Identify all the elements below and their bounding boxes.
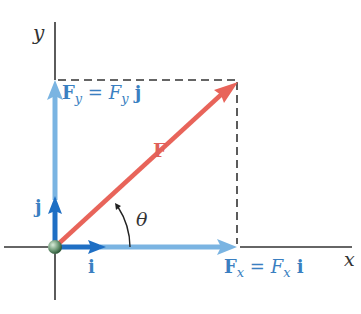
theta-arc [115, 203, 130, 247]
j-unit-vector [48, 196, 62, 247]
i-label: i [88, 256, 95, 277]
fy-label: Fy = Fy j [62, 82, 141, 106]
j-label: j [33, 196, 42, 217]
fy-vector [47, 80, 63, 200]
f-label: F [153, 139, 167, 161]
theta-label: θ [136, 208, 148, 230]
force-components-diagram: y x Fy = Fy j Fx = Fx i F θ i j [0, 0, 361, 314]
fx-label: Fx = Fx i [224, 256, 304, 280]
particle [48, 240, 62, 254]
fx-vector [100, 239, 237, 255]
y-axis-label: y [32, 21, 45, 45]
x-axis-label: x [344, 248, 355, 270]
